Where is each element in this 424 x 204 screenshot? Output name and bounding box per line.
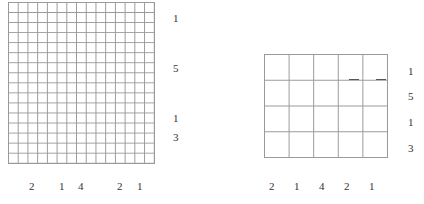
cell-mark [349, 79, 359, 80]
column-clue: 2 [117, 181, 123, 192]
column-clue: 1 [369, 181, 375, 192]
column-clue: 1 [59, 181, 65, 192]
row-clue: 5 [408, 91, 414, 102]
nonogram-grid-small[interactable] [264, 54, 388, 158]
nonogram-grid-large[interactable] [8, 2, 155, 164]
column-clue: 1 [137, 181, 143, 192]
column-clue: 2 [269, 181, 275, 192]
row-clue: 1 [173, 113, 179, 124]
row-clue: 1 [408, 117, 414, 128]
row-clue: 5 [173, 63, 179, 74]
column-clue: 4 [319, 181, 325, 192]
column-clue: 1 [294, 181, 300, 192]
row-clue: 3 [173, 132, 179, 143]
row-clue: 1 [408, 66, 414, 77]
column-clue: 2 [344, 181, 350, 192]
cell-mark [376, 79, 386, 80]
row-clue: 1 [173, 13, 179, 24]
column-clue: 2 [29, 181, 35, 192]
column-clue: 4 [78, 181, 84, 192]
row-clue: 3 [408, 143, 414, 154]
